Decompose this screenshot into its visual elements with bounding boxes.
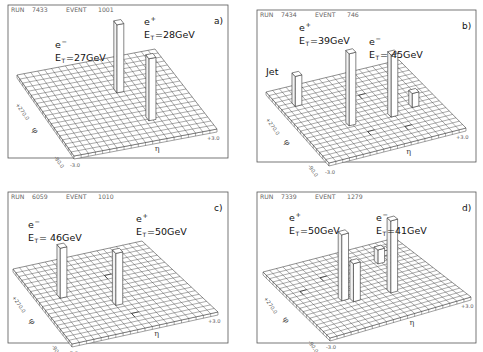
run-label: RUN xyxy=(260,193,274,200)
eta-axis-label: η xyxy=(406,147,411,156)
et-value: =41GeV xyxy=(387,225,427,236)
run-number: 6059 xyxy=(32,193,48,200)
et-symbol: E xyxy=(28,232,34,243)
charge-symbol: + xyxy=(151,15,156,23)
panel-label: c) xyxy=(214,203,222,213)
phi-min-label: -90.0 xyxy=(307,163,320,177)
et-subscript: T xyxy=(295,230,300,237)
et-subscript: T xyxy=(142,231,147,238)
tower-e- xyxy=(57,243,67,298)
et-value: =39GeV xyxy=(310,35,350,46)
et-symbol: E xyxy=(299,35,305,46)
charge-symbol: − xyxy=(62,38,67,46)
et-value: =50GeV xyxy=(147,226,187,237)
particle-symbol: e xyxy=(289,212,295,223)
tower-jet xyxy=(292,71,302,106)
event-label: EVENT xyxy=(66,193,87,200)
particle-symbol: e xyxy=(299,22,305,33)
tower-low xyxy=(409,88,419,107)
charge-symbol: + xyxy=(143,212,148,220)
eta-axis-label: η xyxy=(410,318,415,327)
et-symbol: E xyxy=(144,29,150,40)
panel-d: RUN7339EVENT1279d)e+ET=50GeVe−ET=41GeV+2… xyxy=(257,192,476,352)
event-label: EVENT xyxy=(315,11,336,18)
particle-symbol: e xyxy=(28,219,34,230)
eta-axis-label: η xyxy=(155,144,160,153)
run-number: 7434 xyxy=(281,11,297,18)
lego-plot-figure: RUN7433EVENT1001a)e−ET=27GeVe+ET=28GeV+2… xyxy=(0,0,483,352)
panel-label: b) xyxy=(462,21,471,31)
et-subscript: T xyxy=(305,40,310,47)
particle-symbol: e xyxy=(136,213,142,224)
run-number: 7433 xyxy=(32,6,48,13)
tower-e+ xyxy=(338,230,348,301)
charge-symbol: + xyxy=(306,21,311,29)
panel-a: RUN7433EVENT1001a)e−ET=27GeVe+ET=28GeV+2… xyxy=(8,5,228,169)
eta-max-label: +3.0 xyxy=(461,303,474,309)
panel-c: RUN6059EVENT1010c)e−ET= 46GeVe+ET=50GeV+… xyxy=(8,192,228,352)
charge-symbol: + xyxy=(296,211,301,219)
et-subscript: T xyxy=(34,237,39,244)
charge-symbol: − xyxy=(383,211,388,219)
et-subscript: T xyxy=(375,54,380,61)
tower-e+-shoulder xyxy=(350,259,360,302)
et-symbol: E xyxy=(136,226,142,237)
et-symbol: E xyxy=(376,225,382,236)
event-number: 1010 xyxy=(98,193,114,200)
tower-e+ xyxy=(346,49,356,126)
run-label: RUN xyxy=(260,11,274,18)
et-subscript: T xyxy=(61,57,66,64)
event-number: 1001 xyxy=(98,6,114,13)
eta-min-label: -3.0 xyxy=(325,169,335,175)
event-label: EVENT xyxy=(315,193,336,200)
run-number: 7339 xyxy=(281,193,297,200)
et-value: =28GeV xyxy=(155,29,195,40)
eta-max-label: +3.0 xyxy=(208,318,221,324)
tower-e+ xyxy=(114,20,124,93)
eta-min-label: -3.0 xyxy=(70,162,80,168)
charge-symbol: − xyxy=(376,35,381,43)
panel-label: d) xyxy=(462,203,471,213)
phi-min-label: -90.0 xyxy=(51,344,64,352)
run-label: RUN xyxy=(11,6,25,13)
tower-e- xyxy=(146,53,156,120)
particle-symbol: e xyxy=(369,36,375,47)
tower-jet1 xyxy=(374,245,384,264)
et-symbol: E xyxy=(369,49,375,60)
particle-symbol: e xyxy=(55,39,61,50)
panel-b: RUN7434EVENT746b)Jete+ET=39GeVe−ET= 45Ge… xyxy=(257,10,476,178)
jet-label: Jet xyxy=(265,66,279,77)
event-label: EVENT xyxy=(66,6,87,13)
panel-label: a) xyxy=(214,16,223,26)
et-value: =50GeV xyxy=(300,225,340,236)
et-symbol: E xyxy=(289,225,295,236)
et-subscript: T xyxy=(150,34,155,41)
et-value: = 46GeV xyxy=(39,232,82,243)
et-symbol: E xyxy=(55,52,61,63)
eta-min-label: -3.0 xyxy=(326,344,336,350)
tower-e+ xyxy=(112,248,122,305)
eta-max-label: +3.0 xyxy=(207,135,220,141)
tower-e- xyxy=(388,50,398,117)
et-value: =27GeV xyxy=(66,52,106,63)
charge-symbol: − xyxy=(35,218,40,226)
run-label: RUN xyxy=(11,193,25,200)
eta-max-label: +3.0 xyxy=(456,134,469,140)
et-subscript: T xyxy=(382,230,387,237)
particle-symbol: e xyxy=(376,212,382,223)
event-number: 746 xyxy=(347,11,359,18)
figure-canvas: RUN7433EVENT1001a)e−ET=27GeVe+ET=28GeV+2… xyxy=(0,0,483,352)
particle-symbol: e xyxy=(144,16,150,27)
eta-axis-label: η xyxy=(154,329,159,338)
et-value: = 45GeV xyxy=(380,49,423,60)
event-number: 1279 xyxy=(347,193,363,200)
